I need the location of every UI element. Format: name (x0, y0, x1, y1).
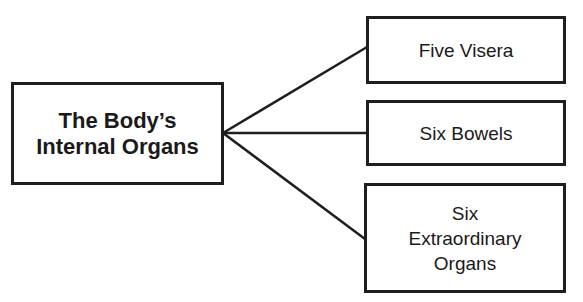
root-node-label: The Body’s Internal Organs (36, 108, 199, 160)
connector-to-six-extraordinary-organs (223, 133, 365, 239)
root-node: The Body’s Internal Organs (11, 82, 224, 185)
node-six-bowels: Six Bowels (366, 100, 566, 166)
node-six-extraordinary-organs: Six Extraordinary Organs (364, 183, 566, 293)
node-label: Six Bowels (420, 121, 513, 146)
connector-to-five-visera (223, 47, 367, 133)
node-five-visera: Five Visera (366, 16, 566, 84)
node-label: Five Visera (419, 38, 514, 63)
node-label: Six Extraordinary Organs (409, 201, 522, 276)
